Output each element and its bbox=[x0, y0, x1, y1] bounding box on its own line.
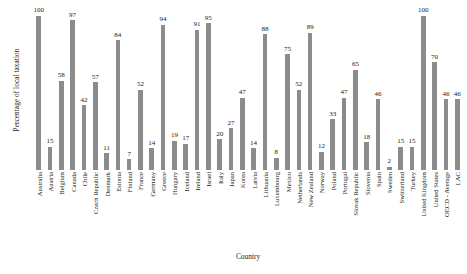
x-tick: Portugal bbox=[338, 170, 349, 248]
bar bbox=[455, 99, 460, 170]
bar bbox=[398, 147, 403, 170]
bar-value-label: 17 bbox=[182, 134, 189, 142]
x-tick-label: Canada bbox=[69, 172, 76, 192]
bar-group: 18 bbox=[361, 8, 372, 170]
x-tick: Netherlands bbox=[293, 170, 304, 248]
bar-value-label: 58 bbox=[58, 71, 65, 79]
bar bbox=[330, 119, 335, 170]
bar-value-label: 14 bbox=[148, 139, 155, 147]
bar-chart: Percentage of local taxation 10015589742… bbox=[0, 0, 467, 274]
bar-value-label: 52 bbox=[137, 80, 144, 88]
x-tick-label: Sweden bbox=[386, 172, 393, 193]
bar-group: 46 bbox=[372, 8, 383, 170]
bar bbox=[240, 98, 245, 171]
x-tick: Israel bbox=[203, 170, 214, 248]
bar-group: 47 bbox=[237, 8, 248, 170]
x-tick-label: Portugal bbox=[341, 172, 348, 194]
bar bbox=[82, 105, 87, 170]
bar bbox=[274, 158, 279, 170]
bar bbox=[229, 128, 234, 170]
x-tick: Australia bbox=[33, 170, 44, 248]
bar-group: 8 bbox=[271, 8, 282, 170]
x-tick: LAC bbox=[452, 170, 463, 248]
bar-group: 100 bbox=[418, 8, 429, 170]
x-tick: Greece bbox=[157, 170, 168, 248]
x-tick-label: Norway bbox=[318, 172, 325, 193]
x-tick-label: Poland bbox=[329, 172, 336, 190]
x-tick-label: Finland bbox=[126, 172, 133, 192]
bar-value-label: 84 bbox=[114, 31, 121, 39]
x-tick-label: Turkey bbox=[408, 172, 415, 191]
x-tick: Japan bbox=[225, 170, 236, 248]
bar bbox=[70, 20, 75, 170]
bar bbox=[93, 82, 98, 170]
x-tick: OECD - Average bbox=[440, 170, 451, 248]
bar bbox=[36, 16, 41, 170]
x-tick: Luxembourg bbox=[271, 170, 282, 248]
bar-value-label: 2 bbox=[388, 157, 392, 165]
bar-group: 94 bbox=[157, 8, 168, 170]
bar-group: 15 bbox=[406, 8, 417, 170]
x-tick: United Kingdom bbox=[418, 170, 429, 248]
x-tick: Italy bbox=[214, 170, 225, 248]
bar-value-label: 47 bbox=[239, 88, 246, 96]
x-tick: Iceland bbox=[180, 170, 191, 248]
bar-group: 65 bbox=[350, 8, 361, 170]
x-tick: Austria bbox=[44, 170, 55, 248]
x-tick: United States bbox=[429, 170, 440, 248]
bar-value-label: 20 bbox=[216, 130, 223, 138]
x-tick-label: Latvia bbox=[250, 172, 257, 189]
x-tick-label: Iceland bbox=[182, 172, 189, 191]
x-tick: Spain bbox=[372, 170, 383, 248]
x-tick-label: Hungary bbox=[171, 172, 178, 195]
bar-value-label: 8 bbox=[274, 148, 278, 156]
bar bbox=[353, 70, 358, 170]
bar-group: 11 bbox=[101, 8, 112, 170]
x-tick-label: Slovak Republic bbox=[352, 172, 359, 216]
y-axis-title-text: Percentage of local taxation bbox=[13, 49, 21, 132]
bar bbox=[410, 147, 415, 170]
plot-area: 1001558974257118475214941917919520274714… bbox=[33, 8, 463, 170]
x-tick: New Zealand bbox=[305, 170, 316, 248]
x-tick: Turkey bbox=[406, 170, 417, 248]
x-tick: Switzerland bbox=[395, 170, 406, 248]
x-tick-label: OECD - Average bbox=[442, 172, 449, 217]
bar bbox=[104, 153, 109, 170]
bar-value-label: 46 bbox=[442, 90, 449, 98]
y-axis-title: Percentage of local taxation bbox=[0, 0, 34, 180]
x-tick: Czech Republic bbox=[90, 170, 101, 248]
bar-value-label: 12 bbox=[318, 142, 325, 150]
bar-group: 57 bbox=[90, 8, 101, 170]
bar-group: 15 bbox=[44, 8, 55, 170]
bar bbox=[149, 148, 154, 170]
bar-group: 100 bbox=[33, 8, 44, 170]
x-tick: Latvia bbox=[248, 170, 259, 248]
x-tick-label: Estonia bbox=[114, 172, 121, 192]
x-tick-label: New Zealand bbox=[307, 172, 314, 207]
x-tick-label: Australia bbox=[35, 172, 42, 196]
bar bbox=[308, 33, 313, 170]
bar bbox=[127, 159, 132, 170]
bar-group: 17 bbox=[180, 8, 191, 170]
bar-group: 14 bbox=[146, 8, 157, 170]
bar bbox=[251, 148, 256, 170]
bar-group: 58 bbox=[56, 8, 67, 170]
bar-value-label: 19 bbox=[171, 131, 178, 139]
bar-group: 91 bbox=[191, 8, 202, 170]
x-axis-title: Country bbox=[33, 252, 463, 261]
bar-value-label: 70 bbox=[431, 53, 438, 61]
x-tick-label: Slovenia bbox=[363, 172, 370, 195]
x-tick-label: Mexico bbox=[284, 172, 291, 192]
bar-value-label: 15 bbox=[397, 137, 404, 145]
x-tick-label: United Kingdom bbox=[420, 172, 427, 217]
x-tick-label: Lithuania bbox=[261, 172, 268, 197]
x-tick-label: Germany bbox=[148, 172, 155, 197]
x-tick: France bbox=[135, 170, 146, 248]
bar bbox=[263, 34, 268, 170]
x-tick-label: Korea bbox=[239, 172, 246, 188]
bar-group: 42 bbox=[78, 8, 89, 170]
x-tick: Korea bbox=[237, 170, 248, 248]
bar bbox=[183, 144, 188, 170]
x-tick: Finland bbox=[124, 170, 135, 248]
bar-value-label: 97 bbox=[69, 11, 76, 19]
